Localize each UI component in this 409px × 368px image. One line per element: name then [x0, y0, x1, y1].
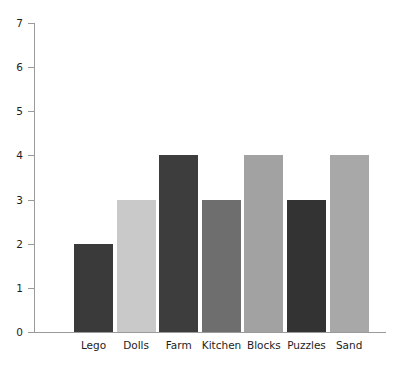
bar-lego	[74, 244, 113, 332]
x-axis-label: Sand	[330, 340, 369, 351]
x-axis-label: Blocks	[244, 340, 283, 351]
x-axis-line	[34, 332, 386, 333]
x-axis-label: Puzzles	[287, 340, 326, 351]
bar-sand	[330, 155, 369, 332]
bar-blocks	[244, 155, 283, 332]
y-tick-mark	[28, 332, 34, 333]
bar-farm	[159, 155, 198, 332]
x-axis-label: Farm	[159, 340, 198, 351]
y-tick-label: 0	[1, 327, 23, 338]
y-tick-label: 3	[1, 195, 23, 206]
x-axis-label: Dolls	[117, 340, 156, 351]
bar-kitchen	[202, 200, 241, 332]
y-tick-label: 6	[1, 62, 23, 73]
y-tick-label: 4	[1, 150, 23, 161]
y-tick-label: 2	[1, 239, 23, 250]
y-tick-label: 5	[1, 106, 23, 117]
bar-chart: 01234567 LegoDollsFarmKitchenBlocksPuzzl…	[0, 0, 409, 368]
bar-puzzles	[287, 200, 326, 332]
bar-dolls	[117, 200, 156, 332]
y-tick-label: 1	[1, 283, 23, 294]
plot-area	[34, 23, 386, 332]
y-tick-label: 7	[1, 18, 23, 29]
x-axis-label: Kitchen	[202, 340, 241, 351]
x-axis-label: Lego	[74, 340, 113, 351]
